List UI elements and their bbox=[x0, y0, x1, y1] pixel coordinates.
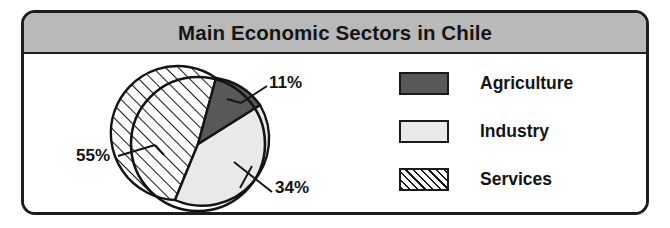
legend-item-industry: Industry bbox=[399, 115, 644, 147]
legend-swatch-agriculture bbox=[399, 72, 449, 95]
chart-legend: Agriculture Industry Services bbox=[399, 67, 644, 195]
chart-plot-area: 55% 11% 34% Agriculture Industry Service… bbox=[24, 54, 646, 215]
pie-label-services: 55% bbox=[76, 146, 110, 166]
pie-chart-figure: Main Economic Sectors in Chile bbox=[0, 0, 670, 228]
pie-label-agriculture: 11% bbox=[269, 73, 302, 93]
legend-item-services: Services bbox=[399, 163, 644, 195]
legend-label-agriculture: Agriculture bbox=[480, 73, 573, 94]
chart-frame: Main Economic Sectors in Chile bbox=[21, 10, 649, 215]
legend-label-industry: Industry bbox=[480, 121, 549, 142]
pie-graphic bbox=[24, 54, 404, 215]
page-title: Main Economic Sectors in Chile bbox=[178, 21, 492, 45]
pie-label-industry: 34% bbox=[275, 178, 309, 198]
legend-label-services: Services bbox=[480, 169, 552, 190]
legend-item-agriculture: Agriculture bbox=[399, 67, 644, 99]
legend-swatch-industry bbox=[399, 120, 449, 143]
pie-svg bbox=[24, 54, 404, 215]
chart-title-band: Main Economic Sectors in Chile bbox=[24, 13, 646, 54]
legend-swatch-services bbox=[399, 168, 449, 191]
